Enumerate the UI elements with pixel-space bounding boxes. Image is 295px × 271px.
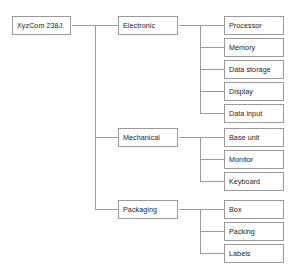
node-root[interactable]: XyzCom 238J.	[12, 16, 71, 35]
node-leaf-display-label: Display	[229, 87, 253, 96]
node-leaf-keyboard[interactable]: Keyboard	[224, 172, 284, 191]
node-leaf-base-unit-label: Base unit	[229, 133, 259, 142]
node-leaf-packing[interactable]: Packing	[224, 222, 284, 241]
node-root-label: XyzCom 238J.	[17, 21, 64, 30]
node-leaf-monitor-label: Monitor	[229, 155, 253, 164]
node-group-packaging-label: Packaging	[123, 205, 157, 214]
node-leaf-data-storage-label: Data storage	[229, 65, 271, 74]
node-leaf-box-label: Box	[229, 205, 242, 214]
node-leaf-labels[interactable]: Labels	[224, 244, 284, 263]
node-leaf-keyboard-label: Keyboard	[229, 177, 260, 186]
node-group-mechanical[interactable]: Mechanical	[118, 128, 178, 147]
node-leaf-data-storage[interactable]: Data storage	[224, 60, 284, 79]
node-leaf-base-unit[interactable]: Base unit	[224, 128, 284, 147]
node-group-electronic[interactable]: Electronic	[118, 16, 178, 35]
node-leaf-data-input-label: Data input	[229, 109, 262, 118]
node-leaf-box[interactable]: Box	[224, 200, 284, 219]
node-group-electronic-label: Electronic	[123, 21, 155, 30]
product-breakdown-diagram: XyzCom 238J. Electronic Mechanical Packa…	[0, 0, 295, 271]
node-leaf-labels-label: Labels	[229, 249, 250, 258]
node-group-packaging[interactable]: Packaging	[118, 200, 178, 219]
node-leaf-data-input[interactable]: Data input	[224, 104, 284, 123]
node-leaf-memory[interactable]: Memory	[224, 38, 284, 57]
node-leaf-memory-label: Memory	[229, 43, 255, 52]
node-leaf-monitor[interactable]: Monitor	[224, 150, 284, 169]
node-leaf-processor[interactable]: Processor	[224, 16, 284, 35]
node-group-mechanical-label: Mechanical	[123, 133, 160, 142]
node-leaf-display[interactable]: Display	[224, 82, 284, 101]
node-leaf-processor-label: Processor	[229, 21, 262, 30]
node-leaf-packing-label: Packing	[229, 227, 255, 236]
